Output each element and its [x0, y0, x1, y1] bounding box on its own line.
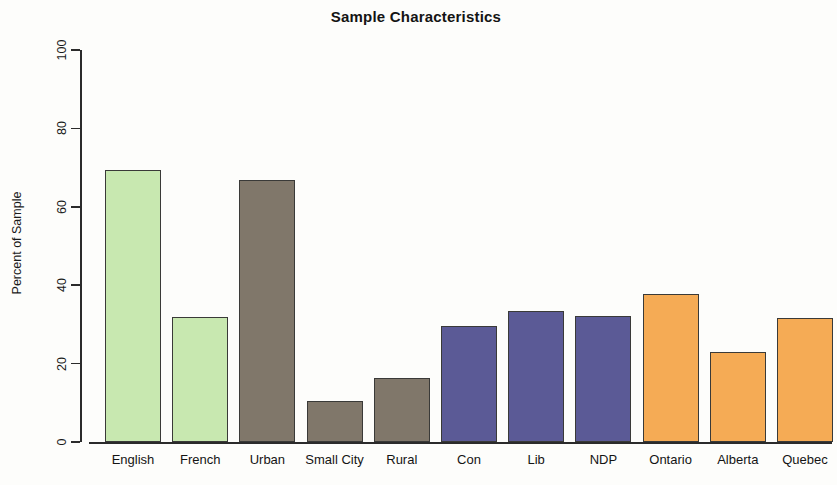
y-axis-tick-label: 40	[55, 278, 69, 292]
bar	[710, 352, 766, 442]
y-axis-tick-label: 0	[55, 439, 69, 446]
bar	[307, 401, 363, 442]
bar	[374, 378, 430, 442]
y-axis-tick-label-wrap: 0	[62, 442, 63, 443]
y-axis-tick	[71, 363, 80, 365]
y-axis-tick-label-wrap: 20	[62, 364, 63, 365]
bar	[239, 180, 295, 442]
y-axis-tick-label-wrap: 100	[62, 50, 63, 51]
bar	[172, 317, 228, 442]
y-axis-tick-label-wrap: 80	[62, 128, 63, 129]
y-axis-tick	[71, 49, 80, 51]
bar	[575, 316, 631, 442]
bar	[441, 326, 497, 442]
bar	[643, 294, 699, 442]
y-axis-tick	[71, 128, 80, 130]
y-axis-tick-label-wrap: 40	[62, 285, 63, 286]
bar	[508, 311, 564, 442]
y-axis-tick-label: 20	[55, 357, 69, 371]
y-axis-tick-label-wrap: 60	[62, 207, 63, 208]
bar	[105, 170, 161, 442]
y-axis-line	[80, 50, 82, 442]
y-axis-tick-label: 60	[55, 200, 69, 214]
x-axis-tick-label: Quebec	[745, 452, 837, 467]
y-axis-tick	[71, 206, 80, 208]
bar	[777, 318, 833, 442]
y-axis-tick-label: 80	[55, 121, 69, 135]
x-axis-line	[89, 442, 832, 444]
y-axis-tick	[71, 441, 80, 443]
y-axis-tick-label: 100	[55, 40, 69, 61]
y-axis-tick	[71, 284, 80, 286]
